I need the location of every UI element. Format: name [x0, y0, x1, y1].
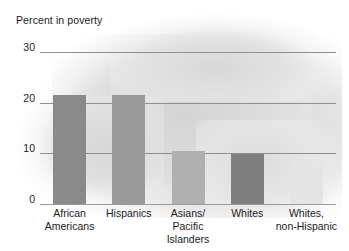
bar	[112, 95, 145, 204]
gridline-30: 30	[40, 52, 336, 53]
x-axis-label: Whites, non-Hispanic	[269, 207, 344, 233]
y-axis-title: Percent in poverty	[16, 14, 102, 27]
x-axis-labels: African AmericansHispanicsAsians/ Pacifi…	[40, 207, 336, 247]
plot-area: 0102030	[40, 52, 336, 204]
bar	[53, 95, 86, 204]
poverty-bar-chart: Percent in poverty 0102030 African Ameri…	[0, 0, 349, 251]
y-tick-label: 0	[29, 194, 35, 205]
y-tick-label: 20	[23, 93, 35, 104]
gridline-0: 0	[40, 204, 336, 205]
bar	[290, 162, 323, 204]
bar	[231, 154, 264, 204]
y-tick-label: 10	[23, 143, 35, 154]
y-tick-label: 30	[23, 42, 35, 53]
bar	[172, 151, 205, 204]
